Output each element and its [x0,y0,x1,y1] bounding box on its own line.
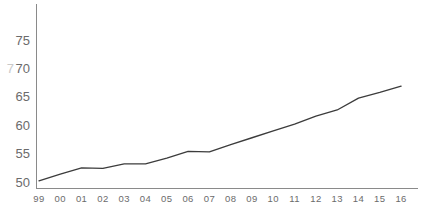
x-tick-label: 03 [119,193,130,204]
y-tick-label: 55 [16,146,30,161]
y-tick-label: 75 [16,33,30,48]
x-tick-label: 12 [310,193,321,204]
edge-artifact-glyph: 7 [7,61,14,76]
x-tick-label: 08 [225,193,236,204]
axis-spines [37,4,419,189]
x-tick-label: 14 [353,193,364,204]
x-tick-label: 13 [332,193,343,204]
x-tick-label: 09 [246,193,257,204]
x-tick-label: 16 [395,193,406,204]
x-tick-label: 02 [97,193,108,204]
y-tick-label: 60 [16,118,30,133]
y-tick-label: 70 [16,61,30,76]
y-tick-label: 65 [16,89,30,104]
data-series-line [39,86,401,181]
y-tick-label: 50 [16,175,30,190]
x-tick-label: 06 [182,193,193,204]
axis-group [37,4,419,189]
y-axis-tick-labels: 75 70 65 60 55 50 [16,33,30,190]
x-tick-label: 00 [55,193,66,204]
x-tick-label: 05 [161,193,172,204]
line-chart: 7 75 70 65 60 55 50 99 00 01 02 03 04 05… [0,0,425,218]
x-axis-tick-labels: 99 00 01 02 03 04 05 06 07 08 09 10 11 1… [33,193,406,204]
x-tick-label: 07 [204,193,215,204]
x-tick-label: 11 [289,193,300,204]
x-tick-label: 01 [76,193,87,204]
x-tick-label: 99 [33,193,44,204]
x-tick-label: 10 [268,193,279,204]
x-tick-label: 04 [140,193,151,204]
x-tick-label: 15 [374,193,385,204]
chart-canvas: 7 75 70 65 60 55 50 99 00 01 02 03 04 05… [0,0,425,218]
